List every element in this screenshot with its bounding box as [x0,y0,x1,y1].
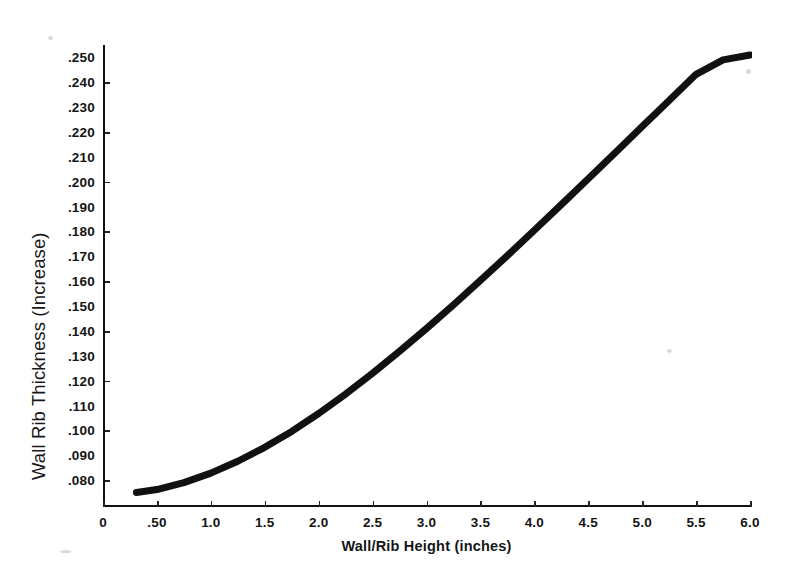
y-axis-tick-label: .130 [49,350,95,364]
x-axis-tick-label: 0 [81,515,125,530]
y-axis-tick-label: .210 [49,151,95,165]
y-axis-tick-label: .230 [49,101,95,115]
data-series-curve [103,45,752,507]
x-axis-tick-label: 2.5 [351,515,395,530]
y-axis-tick-label: .240 [49,76,95,90]
x-axis-tick-label: 6.0 [728,515,772,530]
y-axis-tick-label: .170 [49,250,95,264]
x-axis-tick-mark [103,501,105,507]
y-axis-tick-label: .160 [49,275,95,289]
x-axis-tick-label: 4.5 [566,515,610,530]
y-axis-tick-label: .250 [49,51,95,65]
x-axis-tick-mark [427,501,429,507]
x-axis-tick-label: 3.5 [458,515,502,530]
scan-speck [746,69,751,74]
x-axis-tick-mark [588,501,590,507]
y-axis-tick-label: .150 [49,300,95,314]
y-axis-tick-label: .140 [49,325,95,339]
x-axis-tick-label: 5.5 [674,515,718,530]
data-curve-layer [103,45,752,507]
x-axis-tick-label: 5.0 [620,515,664,530]
y-axis-tick-label: .090 [49,449,95,463]
x-axis-tick-mark [534,501,536,507]
x-axis-tick-mark [265,501,267,507]
y-axis-tick-label: .220 [49,126,95,140]
chart-figure: Wall Rib Thickness (Increase) .250.240.2… [0,0,792,584]
x-axis-tick-mark [642,501,644,507]
x-axis-title: Wall/Rib Height (inches) [103,538,750,554]
scan-speck [48,36,53,40]
x-axis-tick-label: 1.0 [189,515,233,530]
x-axis-tick-mark [480,501,482,507]
x-axis-tick-label: 3.0 [405,515,449,530]
x-axis-ticks: 0.501.01.52.02.53.03.54.04.55.05.56.0 [103,507,753,537]
x-axis-tick-mark [157,501,159,507]
y-axis-tick-label: .080 [49,474,95,488]
x-axis-tick-mark [750,501,752,507]
x-axis-tick-mark [696,501,698,507]
x-axis-tick-mark [319,501,321,507]
y-axis-tick-label: .190 [49,201,95,215]
scan-speck [667,349,672,353]
x-axis-tick-mark [373,501,375,507]
x-axis-tick-mark [211,501,213,507]
y-axis-tick-label: .180 [49,225,95,239]
y-axis-tick-label: .100 [49,424,95,438]
scan-speck [60,550,71,553]
y-axis-tick-labels: .250.240.230.220.210.200.190.180.170.160… [47,45,95,505]
y-axis-tick-label: .120 [49,375,95,389]
x-axis-tick-label: 2.0 [297,515,341,530]
x-axis-tick-label: 1.5 [243,515,287,530]
x-axis-tick-label: .50 [135,515,179,530]
y-axis-tick-label: .200 [49,176,95,190]
y-axis-tick-label: .110 [49,400,95,414]
x-axis-tick-label: 4.0 [512,515,556,530]
